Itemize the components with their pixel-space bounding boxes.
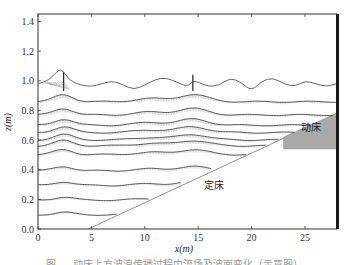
- velocity-vector: [56, 110, 57, 113]
- y-tick-label: 0.8: [22, 105, 35, 116]
- fixed-bed-label: 定床: [204, 179, 224, 191]
- y-axis-title: z(m): [2, 112, 14, 131]
- velocity-vector: [161, 130, 162, 133]
- chart: 0510152025 0.00.20.40.60.81.01.21.4 x(m)…: [0, 0, 349, 265]
- velocity-vector: [171, 112, 172, 115]
- velocity-vector: [137, 100, 138, 103]
- velocity-vector: [60, 120, 61, 123]
- velocity-level: [38, 119, 311, 128]
- velocity-level: [38, 108, 334, 117]
- velocity-vector: [161, 98, 162, 101]
- velocity-level: [38, 212, 117, 216]
- velocity-vector: [174, 98, 175, 101]
- velocity-vector: [56, 96, 57, 99]
- velocity-level-line: [38, 150, 246, 156]
- velocity-vector: [169, 123, 170, 126]
- velocity-level-line: [38, 108, 333, 116]
- velocity-vector: [163, 123, 164, 126]
- velocity-vector: [166, 137, 167, 140]
- velocity-vector: [59, 110, 60, 113]
- velocity-level-line: [38, 134, 278, 141]
- velocity-vector: [181, 183, 182, 184]
- figure-caption: 图 — 动床上方波浪传播过程中流场及波面变化（示意图）: [0, 257, 349, 265]
- velocity-vector: [166, 130, 167, 133]
- velocity-vector: [197, 95, 198, 98]
- velocity-vector: [157, 98, 158, 101]
- velocity-vector: [60, 109, 61, 112]
- velocity-level: [38, 127, 296, 135]
- y-tick-label: 1.0: [22, 75, 35, 86]
- velocity-vector: [59, 141, 60, 144]
- velocity-vector: [171, 98, 172, 101]
- x-tick-label: 25: [300, 232, 310, 243]
- velocity-vector: [192, 108, 193, 111]
- x-tick-label: 10: [140, 232, 150, 243]
- x-tick-label: 20: [247, 232, 257, 243]
- y-tick-label: 0.0: [22, 224, 35, 235]
- velocity-vector: [161, 123, 162, 126]
- y-tick-label: 1.4: [22, 16, 35, 27]
- velocity-vector: [190, 119, 191, 122]
- velocity-vector: [57, 96, 58, 99]
- velocity-level-line: [38, 95, 336, 103]
- velocity-vector: [163, 98, 164, 101]
- velocity-vector: [52, 98, 53, 101]
- velocity-level: [38, 140, 267, 148]
- x-tick-label: 5: [89, 232, 94, 243]
- velocity-vector: [169, 99, 170, 102]
- velocity-vector: [173, 112, 174, 115]
- velocity-vector: [57, 110, 58, 113]
- velocity-vector: [64, 127, 65, 130]
- velocity-vector: [168, 99, 169, 102]
- velocity-level: [38, 197, 149, 201]
- velocity-vector: [54, 111, 55, 114]
- x-tick-label: 15: [193, 232, 203, 243]
- velocity-vector: [173, 98, 174, 101]
- velocity-level: [38, 166, 212, 172]
- velocity-vector: [59, 128, 60, 131]
- velocity-vector: [166, 123, 167, 126]
- velocity-vector: [137, 113, 138, 116]
- movable-bed-label: 动床: [301, 121, 321, 133]
- velocity-vector: [168, 123, 169, 126]
- velocity-vector: [165, 112, 166, 115]
- y-tick-label: 0.4: [22, 164, 35, 175]
- velocity-vector: [189, 95, 190, 98]
- velocity-vector: [211, 169, 212, 171]
- velocity-vector: [190, 95, 191, 98]
- velocity-level: [38, 182, 181, 187]
- velocity-vector: [116, 214, 117, 215]
- velocity-vector: [166, 98, 167, 101]
- velocity-level-line: [38, 212, 117, 215]
- velocity-vector: [169, 112, 170, 115]
- velocity-vector: [62, 127, 63, 130]
- velocity-level: [38, 134, 279, 142]
- velocity-vector: [62, 95, 63, 98]
- velocity-vector: [166, 112, 167, 115]
- velocity-vector: [158, 98, 159, 101]
- x-tick-label: 0: [36, 232, 41, 243]
- velocity-vector: [171, 129, 172, 132]
- velocity-vector: [168, 130, 169, 133]
- velocity-vector: [62, 109, 63, 112]
- velocity-vector: [59, 95, 60, 98]
- velocity-level-line: [38, 182, 181, 186]
- velocity-vector: [149, 199, 150, 200]
- velocity-vector: [187, 96, 188, 99]
- velocity-vector: [139, 100, 140, 103]
- free-surface-line: [38, 70, 337, 89]
- velocity-level: [38, 150, 247, 157]
- velocity-vector: [193, 95, 194, 98]
- velocity-vector: [163, 112, 164, 115]
- velocity-vector: [60, 135, 61, 138]
- velocity-vector: [160, 98, 161, 101]
- velocity-vector: [161, 112, 162, 115]
- velocity-vector: [165, 98, 166, 101]
- y-tick-label: 1.2: [22, 46, 35, 57]
- x-axis-title: x(m): [174, 243, 194, 255]
- plot-area: [38, 70, 337, 229]
- velocity-vector: [160, 123, 161, 126]
- velocity-vector: [192, 95, 193, 98]
- velocity-vector: [198, 95, 199, 98]
- velocity-vector: [141, 99, 142, 102]
